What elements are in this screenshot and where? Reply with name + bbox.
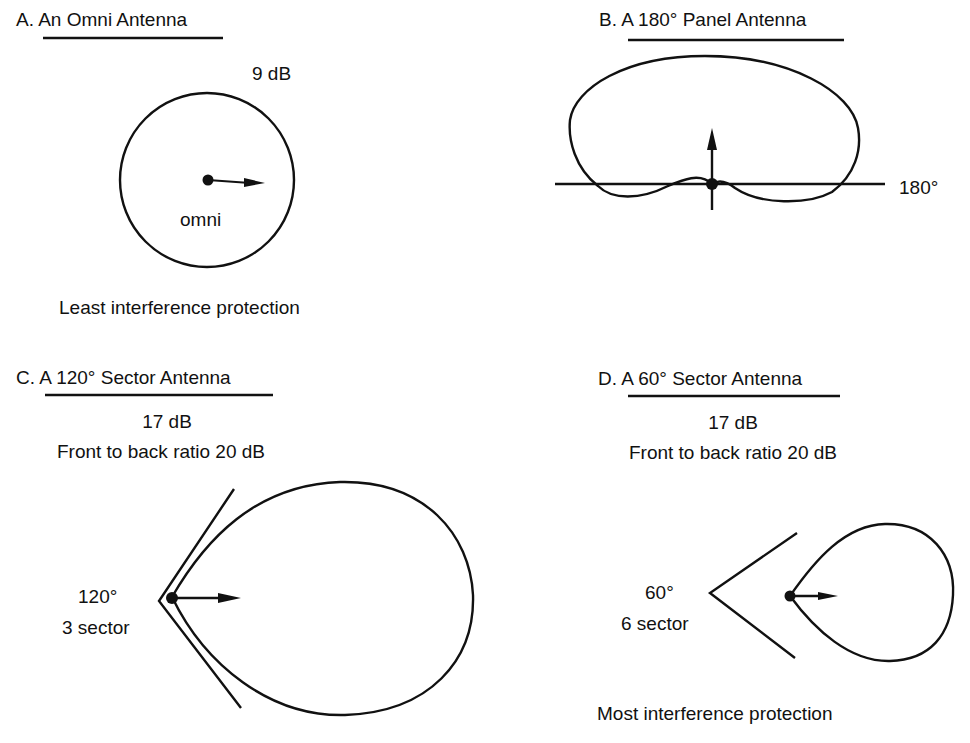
- panel-antenna-dot: [706, 178, 718, 190]
- panel-c-prefix: C.: [16, 367, 35, 388]
- panel-beam-label: 180°: [899, 178, 938, 197]
- panel-d-prefix: D.: [598, 368, 617, 389]
- sector-120-count-label: 3 sector: [62, 618, 130, 637]
- sector-60-ratio-label: Front to back ratio 20 dB: [629, 443, 837, 462]
- panel-d-title-text: A 60° Sector Antenna: [621, 368, 802, 389]
- panel-a-title-text: An Omni Antenna: [38, 9, 187, 30]
- sector-60-antenna-dot: [785, 591, 796, 602]
- sector-120-antenna-dot: [166, 592, 178, 604]
- sector-60-lobe: [790, 524, 953, 661]
- panel-d-title: D. A 60° Sector Antenna: [598, 369, 802, 388]
- panel-c-title: C. A 120° Sector Antenna: [16, 368, 231, 387]
- sector-60-angle-label: 60°: [645, 583, 674, 602]
- sector-120-gain-label: 17 dB: [142, 412, 192, 431]
- omni-arrow-icon: [244, 178, 265, 187]
- panel-b-prefix: B.: [599, 9, 617, 30]
- panel-a-title: A. An Omni Antenna: [16, 10, 187, 29]
- omni-pattern-label: omni: [180, 210, 221, 229]
- sector-120-angle-label: 120°: [78, 587, 117, 606]
- sector-120-ratio-label: Front to back ratio 20 dB: [57, 442, 265, 461]
- sector-60-count-label: 6 sector: [621, 614, 689, 633]
- sector-60-gain-label: 17 dB: [708, 413, 758, 432]
- panel-b-title-text: A 180° Panel Antenna: [621, 9, 806, 30]
- omni-gain-label: 9 dB: [252, 64, 291, 83]
- sector-120-arrow-icon: [218, 593, 241, 603]
- sector-60-bounds: [710, 533, 797, 658]
- omni-caption: Least interference protection: [59, 298, 300, 317]
- sector-60-arrow-icon: [818, 592, 838, 600]
- sector-60-caption: Most interference protection: [597, 704, 833, 723]
- panel-b-title: B. A 180° Panel Antenna: [599, 10, 806, 29]
- panel-c-title-text: A 120° Sector Antenna: [39, 367, 230, 388]
- panel-a-prefix: A.: [16, 9, 34, 30]
- panel-arrow-icon: [707, 128, 717, 150]
